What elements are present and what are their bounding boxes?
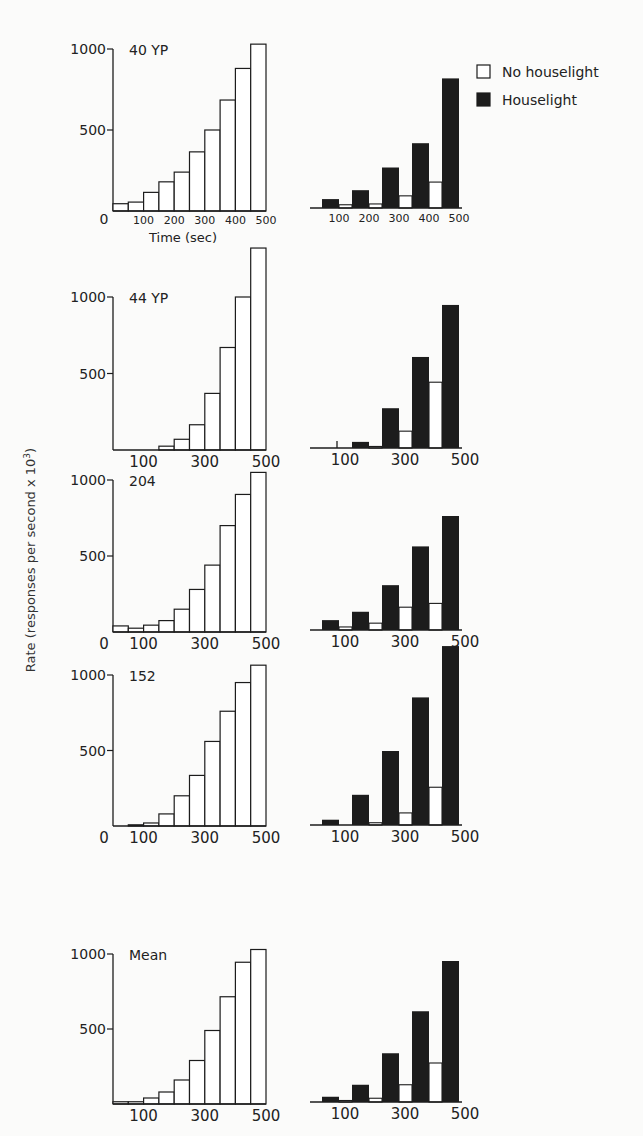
bar-houselight: [412, 143, 429, 208]
bar: [205, 130, 220, 211]
bar: [174, 172, 189, 211]
y-axis-label-exponent: 3: [22, 453, 32, 459]
bar-houselight: [442, 646, 459, 825]
y-tick-label: 500: [79, 366, 106, 382]
x-tick-label: 300: [190, 453, 219, 471]
bar-houselight: [442, 78, 459, 208]
bar: [159, 1092, 174, 1104]
x-tick-label: 500: [252, 1107, 281, 1125]
bar: [205, 741, 220, 826]
x-tick-label: 300: [194, 214, 215, 227]
y-tick-label: 1000: [70, 667, 106, 683]
x-tick-label: 100: [331, 828, 360, 846]
x-tick-label: 500: [451, 828, 480, 846]
bar-no-houselight: [429, 182, 442, 208]
bar: [174, 796, 189, 826]
x-tick-label: 300: [391, 1105, 420, 1123]
bar: [205, 565, 220, 632]
right-panel-44-yp: 100300500: [310, 305, 479, 469]
bar: [220, 711, 235, 826]
bar: [174, 609, 189, 632]
bar-houselight: [352, 190, 369, 208]
panel-title: Mean: [129, 947, 167, 963]
legend: No houselightHouselight: [477, 64, 599, 108]
bar-houselight: [442, 516, 459, 630]
y-tick-label: 1000: [70, 41, 106, 57]
x-tick-label: 100: [331, 1105, 360, 1123]
x-tick-label: 100: [331, 451, 360, 469]
x-tick-label: 200: [359, 212, 380, 225]
bar-houselight: [352, 442, 369, 448]
x-tick-label: 300: [391, 828, 420, 846]
bar: [190, 589, 205, 632]
y-axis-label-text: Rate (responses per second x 10: [23, 459, 38, 673]
bar: [205, 1031, 220, 1105]
bar: [144, 1098, 159, 1104]
bar-no-houselight: [429, 382, 442, 448]
x-tick-label: 500: [252, 829, 281, 847]
x-tick-label: 500: [451, 1105, 480, 1123]
x-tick-label: 400: [225, 214, 246, 227]
left-panel-40-yp: 500100040 YP0100200300400500Time (sec): [70, 41, 276, 245]
x-tick-label: 500: [256, 214, 277, 227]
bar: [235, 297, 250, 450]
bar-no-houselight: [429, 787, 442, 825]
x-tick-label: 300: [190, 1107, 219, 1125]
bar: [205, 393, 220, 450]
bar-houselight: [352, 612, 369, 630]
bar: [251, 44, 266, 211]
bar: [159, 182, 174, 211]
bar: [220, 526, 235, 632]
x-tick-label: 300: [190, 829, 219, 847]
bar-no-houselight: [399, 813, 412, 825]
x-tick-label: 500: [449, 212, 470, 225]
panel-title: 40 YP: [129, 42, 168, 58]
bar: [174, 1080, 189, 1104]
y-tick-label: 500: [79, 548, 106, 564]
bar-houselight: [442, 961, 459, 1102]
y-axis-label: Rate (responses per second x 103): [22, 448, 38, 672]
bar: [235, 68, 250, 211]
right-panel-152: 100300500: [310, 646, 479, 846]
bar: [220, 997, 235, 1104]
x-tick-label: 200: [164, 214, 185, 227]
bar: [251, 950, 266, 1105]
x-tick-label: 500: [252, 635, 281, 653]
bar: [113, 626, 128, 632]
x-tick-label: 300: [391, 451, 420, 469]
bar: [190, 775, 205, 826]
bar-houselight: [322, 820, 339, 825]
x-tick-label: 0: [100, 211, 109, 227]
bar-houselight: [352, 1085, 369, 1102]
x-tick-label: 100: [331, 633, 360, 651]
bar-no-houselight: [369, 623, 382, 630]
panel-title: 152: [129, 668, 156, 684]
y-tick-label: 500: [79, 1021, 106, 1037]
bar: [220, 347, 235, 450]
bar: [251, 665, 266, 826]
x-tick-label: 0: [99, 635, 109, 653]
left-panel-mean: 5001000Mean100300500: [70, 946, 280, 1125]
bar-houselight: [322, 1097, 339, 1102]
bar-no-houselight: [399, 431, 412, 448]
y-tick-label: 500: [79, 743, 106, 759]
bar-houselight: [382, 1053, 399, 1102]
bar: [128, 202, 143, 211]
x-tick-label: 100: [129, 453, 158, 471]
y-tick-label: 500: [79, 122, 106, 138]
bar-houselight: [412, 546, 429, 630]
bar: [235, 683, 250, 826]
bar: [220, 100, 235, 211]
x-tick-label: 300: [190, 635, 219, 653]
left-panel-204: 50010002040100300500: [70, 472, 280, 653]
bar: [190, 425, 205, 450]
x-tick-label: 100: [129, 635, 158, 653]
x-tick-label: 0: [99, 829, 109, 847]
right-panel-204: 100300500: [310, 516, 479, 651]
left-panel-152: 50010001520100300500: [70, 665, 280, 847]
bar-houselight: [442, 305, 459, 448]
x-tick-label: 100: [129, 1107, 158, 1125]
bar-houselight: [382, 585, 399, 630]
legend-swatch: [477, 93, 490, 106]
bar: [190, 152, 205, 211]
